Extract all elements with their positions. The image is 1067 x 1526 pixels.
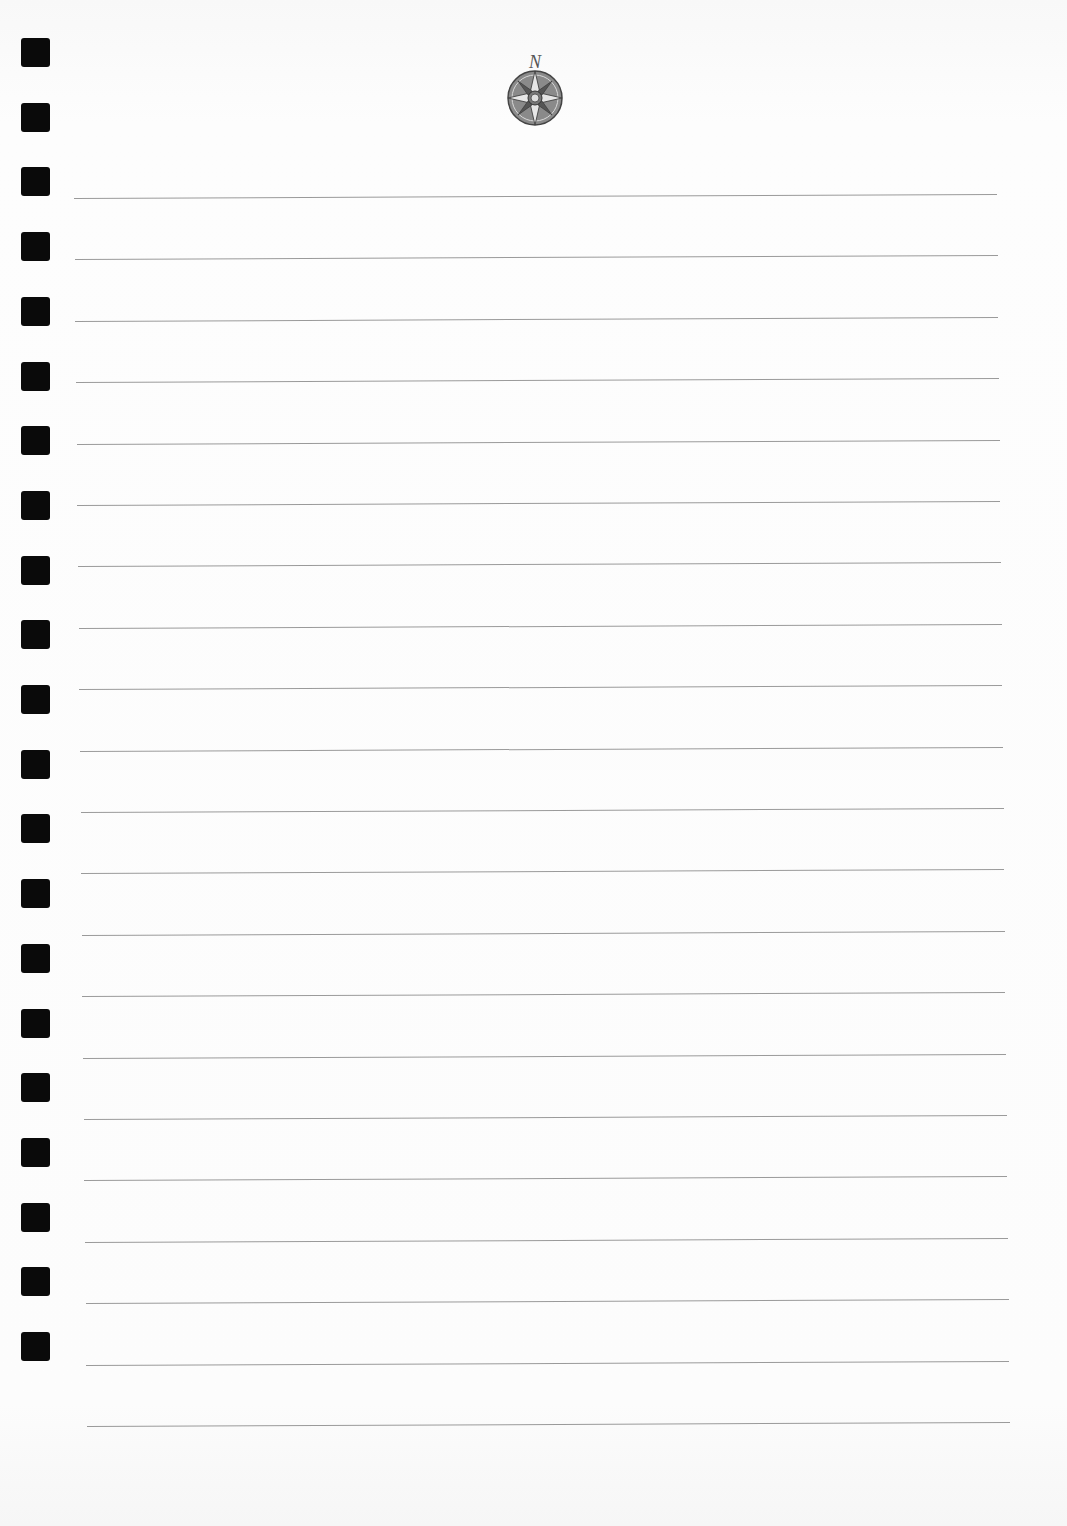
ruled-line xyxy=(85,1238,1008,1243)
ruled-line xyxy=(84,1176,1007,1181)
ruled-line xyxy=(74,194,997,199)
ruled-line xyxy=(86,1299,1009,1304)
ruled-line xyxy=(86,1361,1009,1366)
ruled-line xyxy=(77,440,1000,445)
ruled-line xyxy=(81,808,1004,813)
ruled-line xyxy=(75,255,998,260)
ruled-line xyxy=(75,317,998,322)
ruled-line xyxy=(81,869,1004,874)
ruled-line xyxy=(78,562,1001,567)
ruled-line xyxy=(87,1422,1010,1427)
ruled-line xyxy=(84,1115,1007,1120)
ruled-line xyxy=(79,624,1002,629)
ruled-line xyxy=(82,992,1005,997)
ruled-line xyxy=(83,1054,1006,1059)
notebook-page: N xyxy=(0,0,1067,1526)
ruled-line xyxy=(82,931,1005,936)
ruled-lines xyxy=(0,0,1067,1526)
ruled-line xyxy=(77,501,1000,506)
ruled-line xyxy=(80,747,1003,752)
ruled-line xyxy=(76,378,999,383)
ruled-line xyxy=(79,685,1002,690)
